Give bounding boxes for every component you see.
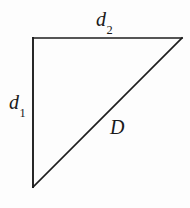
triangle-figure: d2 d1 D xyxy=(0,0,190,208)
label-d1-subscript: 1 xyxy=(19,106,25,120)
figure-background xyxy=(0,0,190,208)
label-hypotenuse-D: D xyxy=(110,117,125,137)
label-d1-base: d xyxy=(9,91,19,113)
label-d2-subscript: 2 xyxy=(106,23,112,37)
label-d2-base: d xyxy=(96,8,106,30)
label-d2: d2 xyxy=(96,9,112,33)
label-d1: d1 xyxy=(9,92,25,116)
label-D-base: D xyxy=(110,116,125,138)
triangle-drawing xyxy=(0,0,190,208)
